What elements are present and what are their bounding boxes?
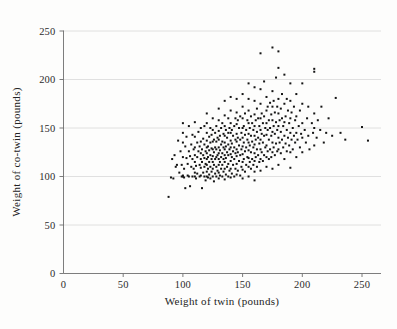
data-point [168,196,170,198]
data-point [289,151,291,153]
data-point [267,106,269,108]
data-point [261,151,263,153]
data-point [283,103,285,105]
data-point [209,166,211,168]
data-point [232,150,234,152]
data-point [252,129,254,131]
data-point [257,117,259,119]
data-point [255,156,257,158]
data-point [254,113,256,115]
data-point [282,146,284,148]
data-point [265,144,267,146]
data-point [226,151,228,153]
data-point [242,153,244,155]
data-point [207,168,209,170]
data-point [288,122,290,124]
data-point [242,93,244,95]
data-point [236,174,238,176]
data-point [213,139,215,141]
data-point [283,121,285,123]
data-point [224,168,226,170]
data-point [217,137,219,139]
data-point [230,96,232,98]
data-point [191,158,193,160]
x-tick-label-200: 200 [294,279,310,290]
data-point [206,140,208,142]
data-point [243,125,245,127]
data-point [367,140,369,142]
data-point [244,171,246,173]
data-point [221,176,223,178]
data-point [219,135,221,137]
data-point [273,146,275,148]
data-point [280,131,282,133]
data-point [224,178,226,180]
data-point [319,129,321,131]
data-point [294,119,296,121]
data-point [189,185,191,187]
data-point [194,154,196,156]
data-point [297,139,299,141]
data-point [227,143,229,145]
data-point [249,161,251,163]
data-point [240,166,242,168]
data-point [230,153,232,155]
data-point [277,137,279,139]
data-point [285,143,287,145]
data-point [299,146,301,148]
data-point [242,169,244,171]
data-point [214,173,216,175]
data-point [230,160,232,162]
data-point [171,158,173,160]
data-point [260,170,262,172]
data-point [212,176,214,178]
data-point [239,154,241,156]
data-point [268,139,270,141]
data-point [299,110,301,112]
data-point [211,158,213,160]
data-point [230,122,232,124]
data-point [289,100,291,102]
data-point [242,161,244,163]
data-point [260,158,262,160]
data-point [206,164,208,166]
data-point [238,144,240,146]
data-point [340,132,342,134]
data-point [251,122,253,124]
data-point [271,168,273,170]
x-tick-label-group: 050100150200250 [61,279,370,290]
data-point [185,157,187,159]
data-point [265,110,267,112]
data-point [277,50,279,52]
data-point [221,141,223,143]
data-point [218,108,220,110]
data-point [178,172,180,174]
data-point [271,90,273,92]
data-point [200,127,202,129]
data-point [293,106,295,108]
data-point [200,152,202,154]
data-point [175,166,177,168]
data-point [236,123,238,125]
data-point [226,137,228,139]
y-tick-label-150: 150 [39,123,55,134]
data-point [209,154,211,156]
data-point [237,119,239,121]
data-point [225,129,227,131]
data-point [189,155,191,157]
data-point [218,146,220,148]
x-tick-label-150: 150 [234,279,250,290]
data-point [250,151,252,153]
data-point [260,148,262,150]
y-tick-label-50: 50 [45,220,56,231]
data-point [230,132,232,134]
data-point [224,114,226,116]
data-point [224,161,226,163]
data-point [200,167,202,169]
data-point [199,164,201,166]
data-point [212,141,214,143]
data-point [325,132,327,134]
data-point [182,142,184,144]
data-point [301,137,303,139]
data-point [194,121,196,123]
